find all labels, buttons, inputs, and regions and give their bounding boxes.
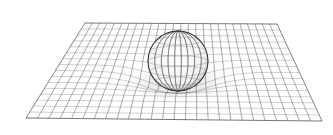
spacetime-illustration [0,0,333,135]
grid-line [85,23,277,24]
grid-line [233,24,254,121]
grid-line [94,23,129,119]
sphere [148,31,208,91]
grid-line [240,24,265,121]
grid-line [248,24,277,121]
curved-grid-figure [0,0,333,135]
